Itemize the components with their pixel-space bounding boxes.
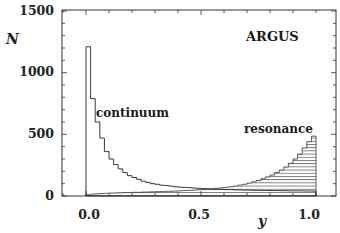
continuum-label: continuum: [96, 106, 169, 120]
y-axis-title: N: [5, 31, 20, 47]
x-tick-label-1: 1.0: [298, 207, 320, 222]
y-tick-label-500: 500: [28, 126, 54, 141]
experiment-label: ARGUS: [245, 29, 299, 44]
resonance-histogram: [86, 136, 316, 196]
histogram-chart: 1500 1000 500 0 0.0 0.5 1.0 N y ARGUS co…: [0, 0, 340, 233]
x-tick-label-0-5: 0.5: [188, 207, 210, 222]
x-tick-label-0: 0.0: [78, 207, 100, 222]
resonance-label: resonance: [244, 122, 313, 136]
x-axis-title: y: [257, 213, 267, 229]
y-tick-label-0: 0: [45, 188, 54, 203]
y-tick-label-1500: 1500: [19, 3, 54, 18]
y-tick-label-1000: 1000: [19, 64, 54, 79]
